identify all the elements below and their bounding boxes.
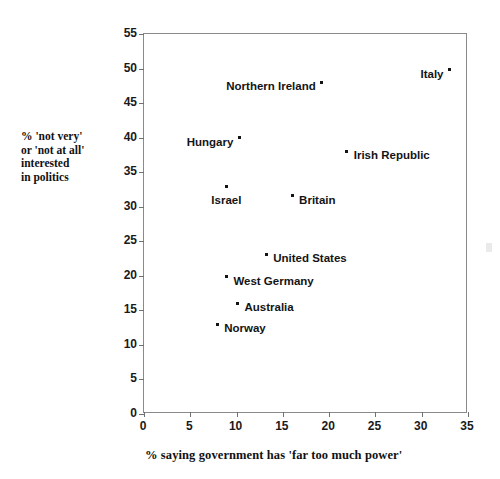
y-tick-label: 45 [111,95,137,109]
data-point-label: United States [273,252,347,264]
data-point-label: Britain [299,194,335,206]
data-point [265,253,268,256]
y-tick-mark [139,241,144,242]
x-tick-label: 30 [406,419,436,433]
data-point [320,81,323,84]
data-point [238,136,241,139]
x-tick-label: 25 [359,419,389,433]
scan-artifact [486,243,492,252]
y-tick-mark [139,310,144,311]
y-axis-tick-labels: 0510152025303540455055 [109,33,137,413]
y-tick-label: 55 [111,26,137,40]
y-tick-mark [139,34,144,35]
y-tick-mark [139,69,144,70]
data-point [448,68,451,71]
x-tick-mark [283,412,284,417]
data-point [345,150,348,153]
y-tick-label: 0 [111,406,137,420]
y-tick-label: 50 [111,61,137,75]
data-point [225,275,228,278]
x-tick-label: 0 [128,419,158,433]
y-axis-label-line-2: interested [21,157,84,171]
y-tick-label: 30 [111,199,137,213]
x-tick-label: 10 [221,419,251,433]
data-point-label: Israel [211,194,241,206]
data-point-label: Australia [244,301,293,313]
y-tick-label: 40 [111,130,137,144]
x-tick-mark [237,412,238,417]
data-point-label: Northern Ireland [226,80,315,92]
x-axis-label: % saying government has 'far too much po… [145,448,402,463]
plot-area: ItalyNorthern IrelandIrish RepublicHunga… [143,33,467,413]
y-tick-label: 35 [111,164,137,178]
y-tick-mark [139,207,144,208]
data-point-label: Irish Republic [354,149,430,161]
x-tick-label: 5 [174,419,204,433]
y-tick-mark [139,345,144,346]
data-point-label: Italy [420,68,443,80]
x-tick-label: 35 [452,419,482,433]
y-tick-label: 20 [111,268,137,282]
data-point [225,185,228,188]
y-axis-label-line-0: % 'not very' [21,130,84,144]
x-tick-mark [144,412,145,417]
data-point-label: West Germany [233,275,313,287]
y-axis-label: % 'not very'or 'not at all'interestedin … [21,130,84,184]
y-axis-label-line-1: or 'not at all' [21,144,84,158]
x-tick-mark [329,412,330,417]
data-point [236,302,239,305]
x-tick-mark [468,412,469,417]
x-tick-mark [190,412,191,417]
data-point-label: Norway [224,322,266,334]
x-tick-label: 20 [313,419,343,433]
x-tick-mark [422,412,423,417]
data-point [216,323,219,326]
y-axis-label-line-3: in politics [21,171,84,185]
y-tick-label: 10 [111,337,137,351]
chart-page: % 'not very'or 'not at all'interestedin … [0,0,500,479]
y-tick-label: 5 [111,371,137,385]
y-tick-mark [139,172,144,173]
y-tick-mark [139,138,144,139]
x-axis-tick-labels: 05101520253035 [143,419,467,437]
y-tick-mark [139,276,144,277]
data-point [291,194,294,197]
y-tick-label: 15 [111,302,137,316]
x-tick-label: 15 [267,419,297,433]
y-tick-mark [139,379,144,380]
y-tick-label: 25 [111,233,137,247]
data-point-label: Hungary [187,136,234,148]
y-tick-mark [139,103,144,104]
x-tick-mark [375,412,376,417]
